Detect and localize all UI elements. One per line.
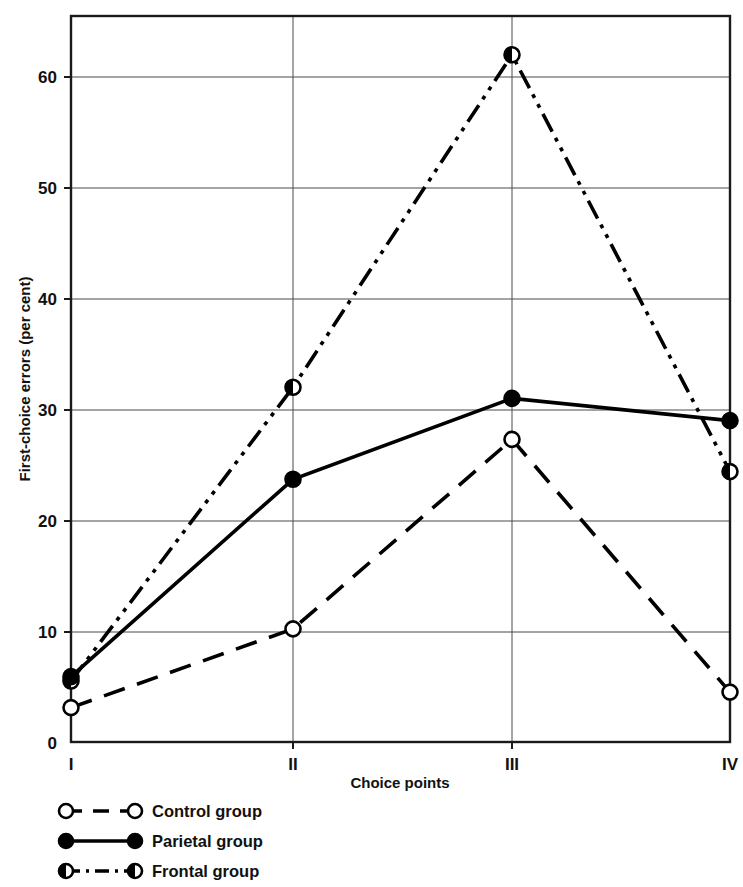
control-marker-I [64,700,79,715]
y-axis-tick-labels: 60 50 40 30 20 10 0 [38,68,57,753]
legend-swatch-marker-parietal-left [59,834,73,848]
legend-swatch-marker-frontal-left [59,864,73,878]
line-chart-figure: 60 50 40 30 20 10 0 I II III IV First-ch… [0,0,743,887]
ytick-label-0: 0 [48,734,57,753]
frontal-marker-II [286,380,301,395]
parietal-marker-IV [723,413,738,428]
legend-swatch-marker-frontal-right [128,864,142,878]
x-axis-title: Choice points [350,774,449,791]
ytick-label-30: 30 [38,401,57,420]
y-axis-title: First-choice errors (per cent) [16,276,33,481]
ytick-label-60: 60 [38,68,57,87]
parietal-marker-III [505,391,520,406]
chart-legend: Control group Parietal group Frontal gro… [59,802,263,880]
frontal-marker-IV [723,464,738,479]
ytick-label-50: 50 [38,179,57,198]
ytick-label-10: 10 [38,623,57,642]
legend-item-parietal-group[interactable]: Parietal group [59,832,263,850]
control-marker-IV [723,685,738,700]
legend-swatch-marker-control-right [128,804,142,818]
control-marker-III [505,432,520,447]
legend-label-parietal-group: Parietal group [152,832,263,850]
xtick-label-IV: IV [722,755,739,774]
legend-swatch-marker-control-left [59,804,73,818]
ytick-label-40: 40 [38,290,57,309]
legend-item-control-group[interactable]: Control group [59,802,262,820]
ytick-label-20: 20 [38,512,57,531]
xtick-label-II: II [288,755,297,774]
frontal-marker-III [505,47,520,62]
legend-label-control-group: Control group [152,802,262,820]
legend-swatch-marker-parietal-right [128,834,142,848]
x-axis-tick-labels: I II III IV [69,755,739,774]
xtick-label-I: I [69,755,74,774]
legend-label-frontal-group: Frontal group [152,862,259,880]
parietal-marker-I [64,669,79,684]
control-marker-II [286,621,301,636]
legend-item-frontal-group[interactable]: Frontal group [59,862,259,880]
xtick-label-III: III [505,755,519,774]
parietal-marker-II [286,472,301,487]
plot-background [71,16,730,742]
